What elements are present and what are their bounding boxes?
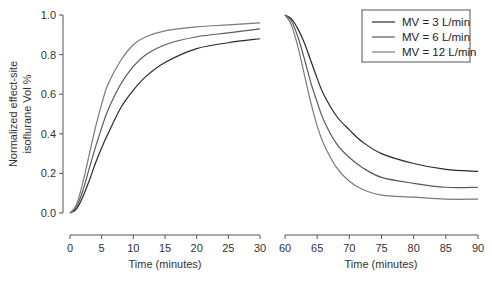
- x-tick-label: 0: [67, 242, 73, 254]
- y-axis: 0.00.20.40.60.81.0 Normalized effect-sit…: [7, 9, 63, 219]
- curve-mv-3-l-min: [70, 39, 260, 213]
- x-tick-label: 15: [159, 242, 171, 254]
- y-tick-label: 1.0: [41, 9, 56, 21]
- x-tick-label: 90: [472, 242, 484, 254]
- y-axis-title-line1: Normalized effect-site: [7, 61, 19, 167]
- x-axis-title-right: Time (minutes): [345, 258, 418, 270]
- x-tick-label: 20: [191, 242, 203, 254]
- x-tick-label: 5: [99, 242, 105, 254]
- curve-mv-12-l-min: [70, 23, 260, 213]
- wash-in-curves: [70, 23, 260, 213]
- y-tick-label: 0.2: [41, 167, 56, 179]
- legend-label: MV = 6 L/min: [402, 31, 470, 43]
- x-axis-title-left: Time (minutes): [129, 258, 202, 270]
- x-axis-left: 051015202530 Time (minutes): [67, 235, 266, 270]
- x-tick-label: 25: [222, 242, 234, 254]
- x-tick-label: 80: [408, 242, 420, 254]
- legend-label: MV = 12 L/min: [402, 46, 476, 58]
- x-tick-label: 30: [254, 242, 266, 254]
- chart-canvas: 0.00.20.40.60.81.0 Normalized effect-sit…: [0, 0, 492, 281]
- y-axis-title-line2: isoflurane Vol %: [21, 74, 33, 153]
- y-tick-label: 0.0: [41, 207, 56, 219]
- x-tick-label: 65: [311, 242, 323, 254]
- curve-mv-6-l-min: [70, 29, 260, 213]
- y-tick-label: 0.6: [41, 88, 56, 100]
- x-tick-label: 75: [375, 242, 387, 254]
- x-tick-label: 60: [279, 242, 291, 254]
- x-tick-label: 85: [440, 242, 452, 254]
- x-axis-right: 60657075808590 Time (minutes): [279, 235, 484, 270]
- x-tick-label: 70: [343, 242, 355, 254]
- x-tick-label: 10: [127, 242, 139, 254]
- legend: MV = 3 L/minMV = 6 L/minMV = 12 L/min: [362, 10, 476, 62]
- y-tick-label: 0.4: [41, 128, 56, 140]
- y-tick-label: 0.8: [41, 49, 56, 61]
- legend-label: MV = 3 L/min: [402, 16, 470, 28]
